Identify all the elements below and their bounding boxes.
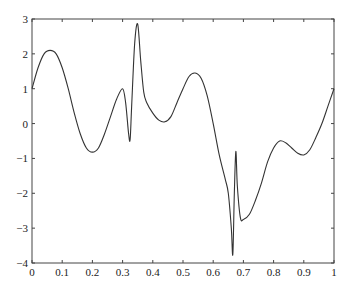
chart-canvas: 00.10.20.30.40.50.60.70.80.91 −4−3−2−101… <box>0 0 352 292</box>
x-tick-label: 0.4 <box>146 266 160 278</box>
x-tick-label: 0.5 <box>176 266 190 278</box>
x-tick-label: 0.3 <box>116 266 130 278</box>
y-tick-label: −3 <box>16 222 28 234</box>
x-tick-label: 1 <box>331 266 337 278</box>
series-line <box>32 24 334 256</box>
y-tick-label: −4 <box>16 257 28 269</box>
y-tick-label: 1 <box>23 83 29 95</box>
x-axis: 00.10.20.30.40.50.60.70.80.91 <box>29 19 337 278</box>
y-tick-label: −2 <box>16 187 28 199</box>
y-tick-label: 0 <box>23 118 29 130</box>
plot-frame <box>32 19 334 263</box>
x-tick-label: 0.9 <box>297 266 311 278</box>
x-tick-label: 0.2 <box>86 266 100 278</box>
line-chart: 00.10.20.30.40.50.60.70.80.91 −4−3−2−101… <box>0 0 352 292</box>
x-tick-label: 0 <box>29 266 35 278</box>
data-series <box>32 24 334 256</box>
x-tick-label: 0.8 <box>267 266 281 278</box>
x-tick-label: 0.6 <box>206 266 220 278</box>
plot-border <box>32 19 334 263</box>
x-tick-label: 0.1 <box>55 266 69 278</box>
y-axis: −4−3−2−10123 <box>16 13 334 269</box>
y-tick-label: 2 <box>23 48 29 60</box>
y-tick-label: 3 <box>23 13 29 25</box>
y-tick-label: −1 <box>16 152 28 164</box>
x-tick-label: 0.7 <box>237 266 251 278</box>
